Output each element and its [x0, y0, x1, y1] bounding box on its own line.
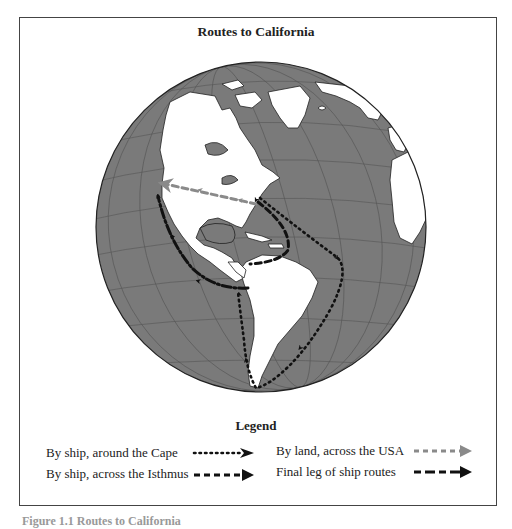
legend-label-land: By land, across the USA — [276, 443, 404, 459]
legend-swatch-isthmus — [192, 469, 256, 481]
figure-caption: Figure 1.1 Routes to California — [22, 514, 181, 529]
legend-swatch-land — [412, 445, 476, 457]
legend-label-cape: By ship, around the Cape — [46, 445, 178, 461]
legend-title: Legend — [0, 418, 512, 434]
legend-label-isthmus: By ship, across the Isthmus — [46, 466, 189, 482]
legend-label-final: Final leg of ship routes — [276, 464, 396, 480]
legend-swatch-final — [412, 466, 476, 478]
legend-swatch-cape — [192, 447, 256, 459]
